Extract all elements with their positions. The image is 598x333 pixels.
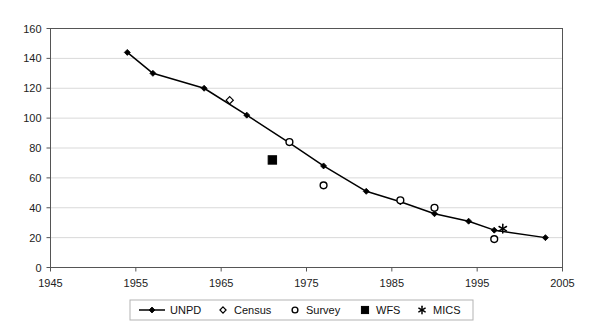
legend-marker-wfs: [361, 306, 368, 313]
data-point-survey: [397, 197, 404, 204]
legend-label-census: Census: [234, 304, 272, 316]
data-point-wfs: [268, 156, 276, 164]
y-axis-tick-label: 20: [29, 232, 41, 244]
legend-label-mics: MICS: [433, 304, 461, 316]
y-axis-tick-label: 120: [23, 82, 41, 94]
y-axis-tick-label: 160: [23, 23, 41, 35]
legend-marker-survey: [292, 307, 298, 313]
y-axis-tick-label: 140: [23, 52, 41, 64]
data-point-survey: [491, 236, 498, 243]
y-axis-tick-label: 100: [23, 112, 41, 124]
chart-container: 160140120100806040200 194519551965197519…: [0, 0, 598, 333]
data-point-survey: [431, 204, 438, 211]
line-chart: 160140120100806040200 194519551965197519…: [0, 0, 598, 333]
x-axis-tick-label: 1965: [209, 277, 233, 289]
legend-label-unpd: UNPD: [170, 304, 201, 316]
y-axis-tick-label: 80: [29, 142, 41, 154]
x-axis-tick-label: 1975: [294, 277, 318, 289]
legend-label-survey: Survey: [306, 304, 341, 316]
chart-legend: UNPDCensusSurveyWFSMICS: [130, 300, 473, 320]
x-axis-tick-label: 2005: [550, 277, 574, 289]
y-axis-tick-label: 0: [35, 262, 41, 274]
data-point-survey: [286, 139, 293, 146]
x-axis-tick-label: 1985: [380, 277, 404, 289]
x-axis-tick-label: 1945: [38, 277, 62, 289]
data-point-survey: [320, 182, 327, 189]
x-axis-tick-label: 1955: [124, 277, 148, 289]
x-axis-tick-label: 1995: [465, 277, 489, 289]
y-axis-tick-label: 60: [29, 172, 41, 184]
legend-label-wfs: WFS: [376, 304, 400, 316]
y-axis-tick-label: 40: [29, 202, 41, 214]
